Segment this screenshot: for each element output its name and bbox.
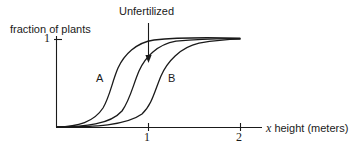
x-axis-label-text: height (meters) [271, 122, 348, 134]
y-axis-label: fraction of plants [10, 24, 91, 35]
curve-label-b: B [168, 73, 175, 84]
unfertilized-arrow [145, 23, 151, 63]
x-tick-label-2: 2 [236, 131, 242, 143]
x-tick-label-1: 1 [144, 131, 150, 143]
y-tick-label-1: 1 [44, 32, 50, 44]
curve-label-a: A [96, 73, 103, 84]
annotation-unfertilized: Unfertilized [119, 6, 174, 17]
x-axis-label: x height (meters) [266, 122, 348, 134]
